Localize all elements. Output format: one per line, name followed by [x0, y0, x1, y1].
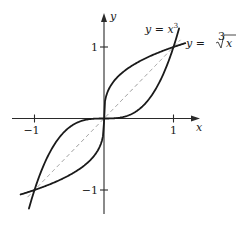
annotation-cube-root: y = 3 x — [185, 30, 236, 50]
y-axis-label: y — [109, 10, 117, 23]
x-axis-label: x — [196, 121, 203, 134]
y-axis-arrow-icon — [101, 13, 107, 22]
annotation-x-cubed-sup: 3 — [174, 22, 178, 30]
x-tick-label: −1 — [23, 124, 39, 137]
axes: x y — [12, 10, 203, 214]
y-tick-label: 1 — [91, 41, 98, 54]
function-plot: x y −11−11 y = x3 y = 3 x — [0, 0, 240, 228]
annotation-x-cubed-text: y = x — [144, 23, 174, 36]
x-tick-label: 1 — [170, 124, 177, 137]
y-tick-label: −1 — [82, 184, 98, 197]
annotation-cube-root-prefix: y = — [185, 37, 205, 50]
annotation-x-cubed: y = x3 — [144, 22, 178, 36]
annotation-cube-root-radicand: x — [226, 37, 233, 50]
annotations: y = x3 y = 3 x — [144, 22, 236, 50]
